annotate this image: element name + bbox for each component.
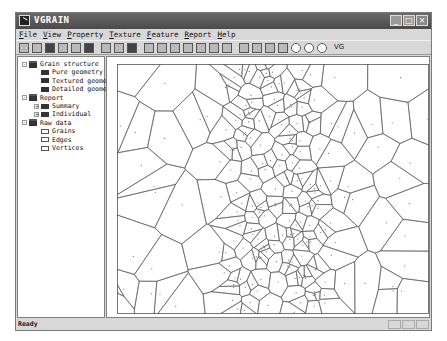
status-panel <box>416 320 429 329</box>
target2-icon[interactable] <box>304 43 314 53</box>
expand-icon[interactable]: + <box>34 112 39 117</box>
measure2-icon[interactable] <box>157 43 167 53</box>
tree-node-vertices[interactable]: Vertices <box>34 144 83 152</box>
tree-node-raw-data[interactable]: -Raw data <box>22 119 71 127</box>
menu-feature[interactable]: Feature <box>147 29 179 40</box>
status-bar: Ready <box>16 319 431 330</box>
menu-view[interactable]: View <box>43 29 61 40</box>
menu-help[interactable]: Help <box>218 29 236 40</box>
tree-node-label: Pure geometry <box>52 68 103 76</box>
open-icon[interactable] <box>71 43 81 53</box>
columns2-icon[interactable] <box>252 43 262 53</box>
tree-node-pure-geometry[interactable]: Pure geometry <box>34 68 103 76</box>
status-panel <box>388 320 401 329</box>
image-icon[interactable] <box>58 43 68 53</box>
table-item-icon <box>41 137 49 142</box>
window-title: VGRAIN <box>34 15 70 25</box>
data-item-icon <box>41 70 49 75</box>
data-item-icon <box>41 112 49 117</box>
copy-icon[interactable] <box>101 43 111 53</box>
target3-icon[interactable] <box>317 43 327 53</box>
menu-texture[interactable]: Texture <box>109 29 141 40</box>
menu-file[interactable]: File <box>19 29 37 40</box>
tree-node-label: Summary <box>52 102 79 110</box>
tree-view[interactable]: -Grain structurePure geometryTextured ge… <box>17 56 105 318</box>
tree-node-label: Grain structure <box>40 60 99 68</box>
angle-icon[interactable] <box>183 43 193 53</box>
columns3-icon[interactable] <box>265 43 275 53</box>
expand-icon[interactable]: + <box>34 104 39 109</box>
close-button[interactable]: × <box>416 15 428 26</box>
data-item-icon <box>41 104 49 109</box>
columns-icon[interactable] <box>239 43 249 53</box>
app-window: VGRAIN _ □ × File View Property Texture … <box>15 12 432 331</box>
tree-node-label: Grains <box>52 127 75 135</box>
print-icon[interactable] <box>127 43 137 53</box>
maximize-button[interactable]: □ <box>403 15 415 26</box>
collapse-icon[interactable]: - <box>22 120 27 125</box>
folder-icon <box>29 119 37 126</box>
angle2-icon[interactable] <box>196 43 206 53</box>
data-item-icon <box>41 87 49 92</box>
menu-bar: File View Property Texture Feature Repor… <box>16 29 434 40</box>
tree-node-individual[interactable]: +Individual <box>34 110 91 118</box>
tree-node-grains[interactable]: Grains <box>34 127 75 135</box>
menu-property[interactable]: Property <box>67 29 103 40</box>
tree-node-edges[interactable]: Edges <box>34 136 72 144</box>
tree-node-label: Edges <box>52 136 72 144</box>
minimize-button[interactable]: _ <box>390 15 402 26</box>
target-icon[interactable] <box>291 43 301 53</box>
tree-node-label: Vertices <box>52 144 83 152</box>
tree-node-report[interactable]: -Report <box>22 94 63 102</box>
table-icon[interactable] <box>170 43 180 53</box>
window-icon[interactable] <box>32 43 42 53</box>
toolbar: VG <box>16 40 431 55</box>
data-item-icon <box>41 78 49 83</box>
grain-canvas-pane[interactable] <box>106 56 430 318</box>
zoom-icon[interactable] <box>209 43 219 53</box>
tree-node-summary[interactable]: +Summary <box>34 102 79 110</box>
tree-node-label: Report <box>40 94 63 102</box>
paste-icon[interactable] <box>114 43 124 53</box>
vg-button[interactable]: VG <box>334 43 344 53</box>
save-icon[interactable] <box>84 43 94 53</box>
menu-report[interactable]: Report <box>184 29 211 40</box>
tree-node-label: Raw data <box>40 119 71 127</box>
app-icon <box>19 15 30 26</box>
tree-node-label: Individual <box>52 110 91 118</box>
folder-icon <box>29 94 37 101</box>
measure-icon[interactable] <box>144 43 154 53</box>
title-bar[interactable]: VGRAIN _ □ × <box>16 13 431 29</box>
histogram-icon[interactable] <box>278 43 288 53</box>
grid-icon[interactable] <box>45 43 55 53</box>
folder-icon <box>29 61 37 68</box>
collapse-icon[interactable]: - <box>22 95 27 100</box>
collapse-icon[interactable]: - <box>22 62 27 67</box>
table-item-icon <box>41 129 49 134</box>
tree-node-grain-structure[interactable]: -Grain structure <box>22 60 99 68</box>
zoom-fit-icon[interactable] <box>222 43 232 53</box>
table-item-icon <box>41 146 49 151</box>
voronoi-grain-diagram[interactable] <box>117 64 429 314</box>
status-panel <box>402 320 415 329</box>
select-icon[interactable] <box>19 43 29 53</box>
